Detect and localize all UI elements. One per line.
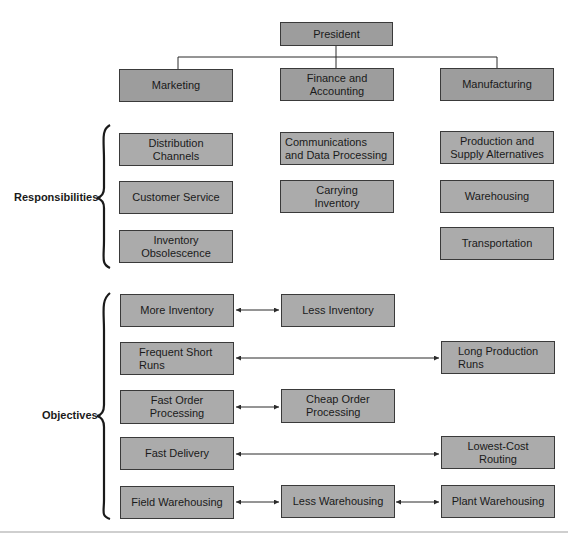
responsibility-text: Distribution Channels <box>148 137 203 163</box>
responsibility-text: Transportation <box>462 237 533 250</box>
objective-text: Cheap Order Processing <box>306 393 370 419</box>
objective-box: Cheap Order Processing <box>281 389 395 423</box>
president-label: President <box>313 28 359 41</box>
responsibility-text: Communications and Data Processing <box>285 136 387 162</box>
objective-text: Plant Warehousing <box>452 495 545 508</box>
marketing-box: Marketing <box>119 69 233 102</box>
objective-text: Field Warehousing <box>131 496 222 509</box>
objective-text: Long Production Runs <box>458 345 538 371</box>
responsibility-box: Warehousing <box>440 180 554 213</box>
responsibility-box: Communications and Data Processing <box>280 132 394 165</box>
responsibility-text: Inventory Obsolescence <box>141 234 211 260</box>
finance-box: Finance and Accounting <box>280 68 394 101</box>
responsibilities-brace <box>97 125 110 268</box>
responsibility-box: Production and Supply Alternatives <box>440 131 554 164</box>
objective-text: Fast Delivery <box>145 447 209 460</box>
responsibility-box: Carrying Inventory <box>280 180 394 213</box>
objective-text: Fast Order Processing <box>150 394 204 420</box>
responsibility-text: Production and Supply Alternatives <box>450 135 544 161</box>
manufacturing-box: Manufacturing <box>440 68 554 101</box>
responsibilities-label: Responsibilities <box>14 191 98 203</box>
objectives-label: Objectives <box>42 409 98 421</box>
objective-box: Less Inventory <box>281 294 395 327</box>
objective-text: Less Inventory <box>302 304 374 317</box>
objective-text: More Inventory <box>140 304 213 317</box>
responsibility-text: Carrying Inventory <box>314 184 359 210</box>
objective-box: Long Production Runs <box>441 341 555 374</box>
responsibility-box: Customer Service <box>119 181 233 214</box>
responsibility-box: Distribution Channels <box>119 133 233 166</box>
objective-box: Fast Delivery <box>120 437 234 470</box>
org-tree-connectors <box>178 45 497 69</box>
responsibility-text: Warehousing <box>465 190 529 203</box>
objective-box: Plant Warehousing <box>441 485 555 518</box>
objective-box: Lowest-Cost Routing <box>441 436 555 469</box>
objective-box: Frequent Short Runs <box>120 342 234 375</box>
manufacturing-label: Manufacturing <box>462 78 532 91</box>
marketing-label: Marketing <box>152 79 200 92</box>
objective-text: Frequent Short Runs <box>139 346 212 372</box>
president-box: President <box>280 22 393 46</box>
finance-label: Finance and Accounting <box>307 72 368 98</box>
objectives-brace <box>97 293 110 519</box>
objective-text: Less Warehousing <box>293 495 384 508</box>
objective-box: More Inventory <box>120 294 234 327</box>
objective-box: Less Warehousing <box>281 485 395 518</box>
objective-box: Field Warehousing <box>120 486 234 519</box>
responsibility-text: Customer Service <box>132 191 219 204</box>
objective-text: Lowest-Cost Routing <box>467 440 528 466</box>
responsibility-box: Inventory Obsolescence <box>119 230 233 263</box>
responsibility-box: Transportation <box>440 227 554 260</box>
objective-box: Fast Order Processing <box>120 390 234 424</box>
